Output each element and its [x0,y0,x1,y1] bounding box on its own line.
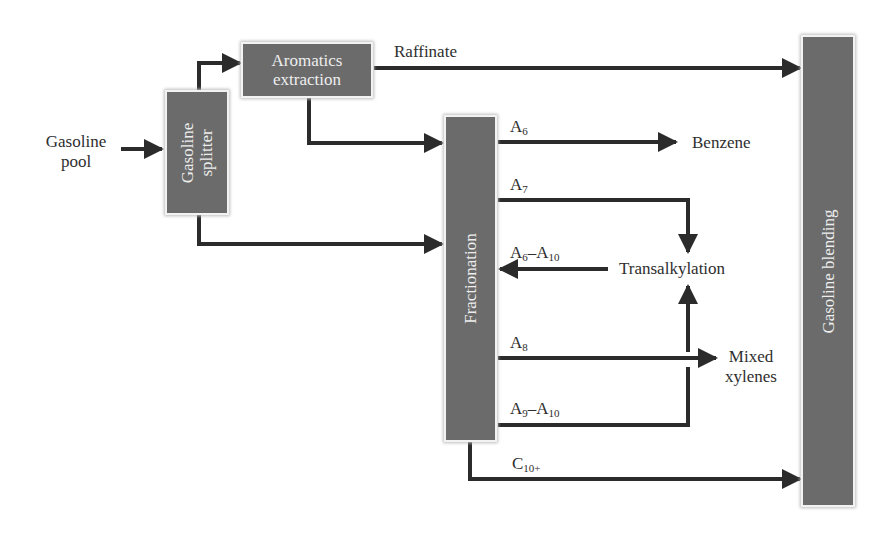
gasoline-splitter-line1: Gasoline [178,122,197,182]
gasoline-pool-line1: Gasoline [36,132,116,152]
raffinate-label: Raffinate [394,42,457,62]
aromatics-extraction-line2: extraction [272,70,343,89]
gasoline-pool-label: Gasoline pool [36,132,116,172]
gasoline-pool-line2: pool [36,152,116,172]
process-flow-diagram: Gasoline pool Gasoline splitter Aromatic… [0,0,894,544]
stream-a6-a10-label: A6–A10 [510,243,560,267]
arrow-extraction-to-fractionation [309,98,442,143]
stream-a8-label: A8 [510,333,528,357]
mixed-xylenes-label: Mixed xylenes [718,347,784,387]
arrow-splitter-to-fractionation [199,214,442,244]
stream-a6-label: A6 [510,117,528,141]
mixed-xylenes-line1: Mixed [718,347,784,367]
gasoline-splitter-line2: splitter [197,122,216,182]
gasoline-splitter-label: Gasoline splitter [178,122,216,182]
gasoline-blending-box: Gasoline blending [801,35,855,507]
stream-c10plus-label: C10+ [512,454,541,478]
fractionation-label: Fractionation [461,233,480,324]
benzene-label: Benzene [692,133,751,153]
transalkylation-label: Transalkylation [619,259,725,279]
fractionation-box: Fractionation [444,115,497,442]
gasoline-splitter-box: Gasoline splitter [165,90,229,215]
aromatics-extraction-label: Aromatics extraction [272,51,343,89]
arrow-splitter-to-extraction [199,63,240,92]
aromatics-extraction-line1: Aromatics [272,51,343,70]
stream-a9-a10-label: A9–A10 [510,399,560,423]
gasoline-blending-label: Gasoline blending [819,209,838,333]
aromatics-extraction-box: Aromatics extraction [241,42,373,98]
mixed-xylenes-line2: xylenes [718,367,784,387]
stream-a7-label: A7 [510,175,528,199]
